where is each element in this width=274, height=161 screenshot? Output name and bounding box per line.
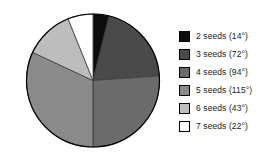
pie-slice-group: 2 seeds (14°)3 seeds (72°)4 seeds (94°)5…: [27, 14, 160, 147]
legend-color-swatch: [179, 121, 190, 132]
pie-chart: 2 seeds (14°)3 seeds (72°)4 seeds (94°)5…: [0, 0, 176, 161]
legend-item-label: 3 seeds (72°): [196, 49, 248, 60]
legend-item[interactable]: 6 seeds (43°): [179, 99, 274, 117]
legend-color-swatch: [179, 67, 190, 78]
legend-color-swatch: [179, 49, 190, 60]
legend-item[interactable]: 5 seeds (115°): [179, 81, 274, 99]
legend-color-swatch: [179, 85, 190, 96]
pie-svg: 2 seeds (14°)3 seeds (72°)4 seeds (94°)5…: [0, 0, 176, 161]
legend-item-label: 7 seeds (22°): [196, 121, 248, 132]
legend-item-label: 6 seeds (43°): [196, 103, 248, 114]
legend-item-label: 4 seeds (94°): [196, 67, 248, 78]
legend-color-swatch: [179, 31, 190, 42]
legend-item-label: 2 seeds (14°): [196, 31, 248, 42]
chart-legend: 2 seeds (14°)3 seeds (72°)4 seeds (94°)5…: [179, 27, 274, 137]
legend-color-swatch: [179, 103, 190, 114]
legend-item-label: 5 seeds (115°): [196, 85, 252, 96]
legend-item[interactable]: 4 seeds (94°): [179, 63, 274, 81]
legend-item[interactable]: 7 seeds (22°): [179, 117, 274, 135]
pie-slice[interactable]: 4 seeds (94°): [93, 76, 160, 147]
legend-item[interactable]: 2 seeds (14°): [179, 27, 274, 45]
legend-item[interactable]: 3 seeds (72°): [179, 45, 274, 63]
pie-chart-figure: 2 seeds (14°)3 seeds (72°)4 seeds (94°)5…: [0, 0, 274, 161]
